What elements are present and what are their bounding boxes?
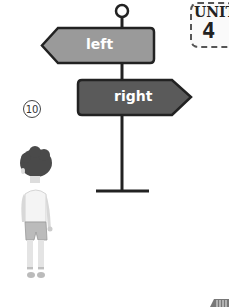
corner-tab-decoration	[210, 299, 229, 307]
left-sign-label: left	[86, 36, 113, 52]
boy-figure	[20, 146, 53, 278]
item-number: 10	[23, 100, 41, 118]
ring-icon	[116, 5, 128, 17]
unit-number: 4	[202, 18, 215, 43]
right-sign-label: right	[114, 88, 152, 104]
